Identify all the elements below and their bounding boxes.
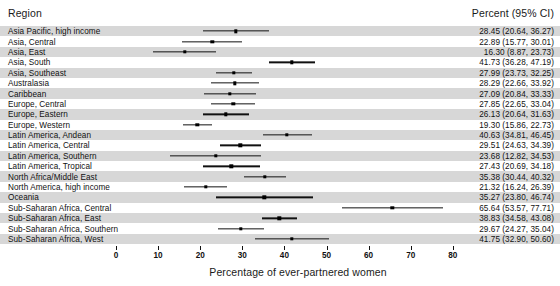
table-row: North Africa/Middle East35.38 (30.44, 40… xyxy=(0,171,560,181)
table-row: North America, high income21.32 (16.24, … xyxy=(0,182,560,192)
row-value-percent-ci: 28.45 (20.64, 36.27) xyxy=(479,27,554,36)
point-estimate-marker xyxy=(232,102,235,105)
x-axis-tick-label: 30 xyxy=(238,251,247,260)
table-row: Caribbean27.09 (20.84, 33.33) xyxy=(0,88,560,98)
row-label-region: Asia Pacific, high income xyxy=(8,27,100,36)
table-row: Oceania35.27 (23.80, 46.74) xyxy=(0,192,560,202)
row-value-percent-ci: 29.51 (24.63, 34.39) xyxy=(479,141,554,150)
row-label-region: Latin America, Southern xyxy=(8,151,97,160)
table-row: Latin America, Andean40.63 (34.81, 46.45… xyxy=(0,130,560,140)
table-row: Latin America, Tropical27.43 (20.69, 34.… xyxy=(0,161,560,171)
x-axis-tick xyxy=(327,246,328,250)
row-label-region: Asia, South xyxy=(8,58,50,67)
row-value-percent-ci: 41.75 (32.90, 50.60) xyxy=(479,235,554,244)
row-value-percent-ci: 35.27 (23.80, 46.74) xyxy=(479,193,554,202)
x-axis-tick-label: 50 xyxy=(322,251,331,260)
x-axis-tick-label: 10 xyxy=(154,251,163,260)
x-axis-tick-label: 60 xyxy=(364,251,373,260)
table-row: Latin America, Southern23.68 (12.82, 34.… xyxy=(0,151,560,161)
point-estimate-marker xyxy=(233,81,236,84)
row-label-region: Sub-Saharan Africa, West xyxy=(8,235,103,244)
point-estimate-marker xyxy=(196,123,199,126)
forest-plot: Region Percent (95% CI) Asia Pacific, hi… xyxy=(0,0,560,286)
row-label-region: Sub-Saharan Africa, Central xyxy=(8,203,111,212)
point-estimate-marker xyxy=(230,165,233,168)
row-label-region: Latin America, Central xyxy=(8,141,90,150)
row-label-region: Australasia xyxy=(8,79,49,88)
x-axis-tick-label: 80 xyxy=(448,251,457,260)
row-value-percent-ci: 28.29 (22.66, 33.92) xyxy=(479,79,554,88)
row-label-region: Europe, Eastern xyxy=(8,110,68,119)
row-label-region: Sub-Saharan Africa, Southern xyxy=(8,224,118,233)
table-row: Asia Pacific, high income28.45 (20.64, 3… xyxy=(0,26,560,36)
row-label-region: Latin America, Tropical xyxy=(8,162,92,171)
x-axis-title: Percentage of ever-partnered women xyxy=(0,266,560,278)
x-axis-tick xyxy=(158,246,159,250)
point-estimate-marker xyxy=(290,61,293,64)
table-row: Australasia28.29 (22.66, 33.92) xyxy=(0,78,560,88)
row-label-region: Sub-Saharan Africa, East xyxy=(8,214,101,223)
x-axis-tick-label: 20 xyxy=(196,251,205,260)
table-row: Latin America, Central29.51 (24.63, 34.3… xyxy=(0,140,560,150)
row-label-region: Asia, Central xyxy=(8,37,56,46)
row-value-percent-ci: 38.83 (34.58, 43.08) xyxy=(479,214,554,223)
table-row: Europe, Western19.30 (15.86, 22.73) xyxy=(0,120,560,130)
row-value-percent-ci: 26.13 (20.64, 31.63) xyxy=(479,110,554,119)
x-axis-tick xyxy=(200,246,201,250)
row-label-region: Europe, Western xyxy=(8,120,70,129)
row-value-percent-ci: 27.85 (22.65, 33.04) xyxy=(479,99,554,108)
point-estimate-marker xyxy=(278,217,281,220)
table-row: Asia, Central22.89 (15.77, 30.01) xyxy=(0,36,560,46)
row-value-percent-ci: 41.73 (36.28, 47.19) xyxy=(479,58,554,67)
point-estimate-marker xyxy=(239,144,242,147)
row-label-region: North Africa/Middle East xyxy=(8,172,97,181)
row-value-percent-ci: 22.89 (15.77, 30.01) xyxy=(479,37,554,46)
row-value-percent-ci: 27.43 (20.69, 34.18) xyxy=(479,162,554,171)
point-estimate-marker xyxy=(214,154,217,157)
row-label-region: Oceania xyxy=(8,193,39,202)
x-axis-tick-label: 70 xyxy=(406,251,415,260)
table-row: Asia, East16.30 (8.87, 23.73) xyxy=(0,47,560,57)
x-axis-tick xyxy=(242,246,243,250)
table-row: Sub-Saharan Africa, West41.75 (32.90, 50… xyxy=(0,234,560,244)
table-row: Sub-Saharan Africa, Central65.64 (53.57,… xyxy=(0,203,560,213)
point-estimate-marker xyxy=(391,206,394,209)
point-estimate-marker xyxy=(290,237,293,240)
row-value-percent-ci: 16.30 (8.87, 23.73) xyxy=(484,47,554,56)
point-estimate-marker xyxy=(239,227,242,230)
x-axis-tick xyxy=(369,246,370,250)
x-axis: 01020304050607080 xyxy=(0,246,560,268)
x-axis-tick xyxy=(284,246,285,250)
row-label-region: North America, high income xyxy=(8,183,110,192)
row-value-percent-ci: 29.67 (24.27, 35.04) xyxy=(479,224,554,233)
table-row: Sub-Saharan Africa, East38.83 (34.58, 43… xyxy=(0,213,560,223)
x-axis-tick xyxy=(453,246,454,250)
x-axis-title-text: Percentage of ever-partnered women xyxy=(173,266,386,278)
column-header-region: Region xyxy=(8,7,42,19)
row-value-percent-ci: 65.64 (53.57, 77.71) xyxy=(479,203,554,212)
point-estimate-marker xyxy=(228,92,231,95)
row-value-percent-ci: 27.09 (20.84, 33.33) xyxy=(479,89,554,98)
point-estimate-marker xyxy=(232,71,235,74)
row-value-percent-ci: 40.63 (34.81, 46.45) xyxy=(479,131,554,140)
row-label-region: Asia, Southeast xyxy=(8,68,66,77)
table-row: Sub-Saharan Africa, Southern29.67 (24.27… xyxy=(0,223,560,233)
point-estimate-marker xyxy=(183,50,186,53)
x-axis-tick xyxy=(411,246,412,250)
row-label-region: Europe, Central xyxy=(8,99,66,108)
table-row: Europe, Eastern26.13 (20.64, 31.63) xyxy=(0,109,560,119)
row-label-region: Asia, East xyxy=(8,47,45,56)
row-label-region: Caribbean xyxy=(8,89,46,98)
row-value-percent-ci: 19.30 (15.86, 22.73) xyxy=(479,120,554,129)
column-header-percent: Percent (95% CI) xyxy=(472,7,554,19)
row-value-percent-ci: 23.68 (12.82, 34.53) xyxy=(479,151,554,160)
point-estimate-marker xyxy=(211,40,214,43)
x-axis-tick-label: 40 xyxy=(280,251,289,260)
point-estimate-marker xyxy=(224,113,227,116)
table-row: Asia, Southeast27.99 (23.73, 32.25) xyxy=(0,68,560,78)
row-label-region: Latin America, Andean xyxy=(8,131,91,140)
point-estimate-marker xyxy=(263,196,266,199)
point-estimate-marker xyxy=(263,175,266,178)
point-estimate-marker xyxy=(234,29,237,32)
point-estimate-marker xyxy=(285,133,288,136)
